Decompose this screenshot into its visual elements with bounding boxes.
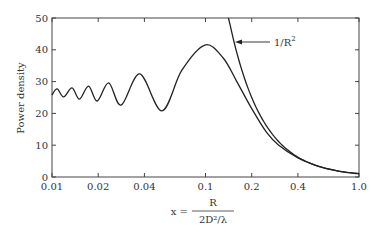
x-tick-label: 0.2 — [244, 181, 260, 192]
y-tick-label: 40 — [35, 44, 48, 55]
x-label-denominator: 2D²/λ — [199, 214, 228, 225]
y-tick-label: 10 — [35, 140, 48, 151]
annotation-label: 1/R2 — [274, 35, 296, 48]
y-tick-label: 50 — [35, 13, 48, 24]
annotation-arrowhead — [235, 40, 242, 45]
power-density-chart: 0.010.020.040.10.20.41.001020304050 1/R2… — [0, 0, 382, 233]
ticks: 0.010.020.040.10.20.41.001020304050 — [35, 13, 367, 193]
series-power-density-line — [52, 45, 359, 174]
x-label-prefix: x = — [171, 206, 188, 217]
x-tick-label: 0.04 — [133, 181, 155, 192]
y-axis-label: Power density — [15, 62, 26, 134]
x-tick-label: 1.0 — [351, 181, 367, 192]
x-tick-label: 0.01 — [41, 181, 63, 192]
series — [52, 18, 359, 174]
x-tick-label: 0.4 — [290, 181, 306, 192]
x-tick-label: 0.1 — [198, 181, 214, 192]
y-tick-label: 20 — [35, 108, 48, 119]
annotation-1-over-r2: 1/R2 — [235, 35, 296, 48]
axes — [52, 18, 359, 177]
x-label-numerator: R — [209, 197, 217, 208]
x-tick-label: 0.02 — [87, 181, 109, 192]
plot-frame — [52, 18, 359, 177]
x-axis-label: x = R 2D²/λ — [171, 197, 234, 225]
y-tick-label: 0 — [42, 172, 48, 183]
y-tick-label: 30 — [35, 76, 48, 87]
